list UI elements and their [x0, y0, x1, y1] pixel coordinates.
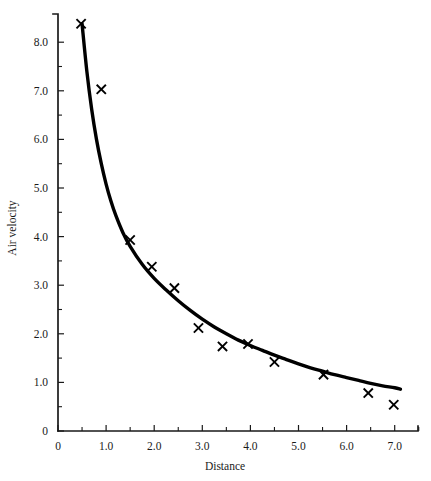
y-tick-label: 6.0 [34, 133, 49, 145]
x-tick-label: 3.0 [195, 440, 210, 452]
axes-layer [53, 14, 418, 431]
x-axis-ticks [58, 425, 419, 431]
chart-figure: 01.02.03.04.05.06.07.0 01.02.03.04.05.06… [0, 0, 431, 481]
x-tick-label: 5.0 [291, 440, 306, 452]
fitted-curve-layer [82, 24, 400, 389]
data-point-marker [194, 323, 203, 332]
y-axis-ticks [58, 42, 64, 431]
y-tick-label: 1.0 [34, 376, 49, 388]
data-point-marker [97, 85, 106, 94]
y-tick-label: 3.0 [34, 279, 49, 291]
x-tick-label: 2.0 [147, 440, 162, 452]
x-tick-label: 4.0 [243, 440, 258, 452]
y-tick-label: 2.0 [34, 328, 49, 340]
x-axis-title: Distance [205, 460, 245, 472]
y-axis-line [53, 14, 58, 431]
data-point-marker [389, 400, 398, 409]
x-tick-label: 6.0 [339, 440, 354, 452]
y-axis-title: Air velocity [6, 200, 19, 255]
x-tick-label: 0 [55, 440, 61, 452]
y-tick-label: 0 [42, 425, 48, 437]
y-axis-tick-labels: 01.02.03.04.05.06.07.08.0 [34, 36, 49, 437]
data-point-marker [170, 284, 179, 293]
data-point-marker [270, 357, 279, 366]
data-point-markers [76, 19, 398, 409]
x-axis-tick-labels: 01.02.03.04.05.06.07.0 [55, 440, 402, 452]
data-point-marker [364, 388, 373, 397]
y-tick-label: 7.0 [34, 85, 49, 97]
y-tick-label: 8.0 [34, 36, 49, 48]
x-axis-line [58, 426, 418, 431]
x-tick-label: 1.0 [99, 440, 114, 452]
fitted-curve [82, 24, 400, 389]
x-tick-label: 7.0 [388, 440, 403, 452]
y-tick-label: 4.0 [34, 231, 49, 243]
data-point-marker [218, 342, 227, 351]
data-point-marker [147, 262, 156, 271]
y-tick-label: 5.0 [34, 182, 49, 194]
scatter-plot-svg: 01.02.03.04.05.06.07.0 01.02.03.04.05.06… [0, 0, 431, 481]
